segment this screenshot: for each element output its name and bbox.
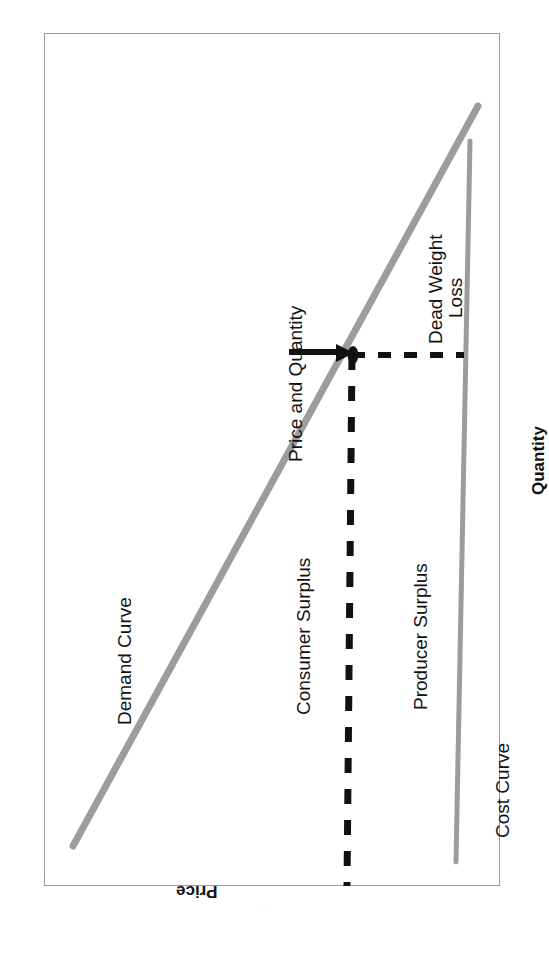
dead-weight-loss-label: Dead Weight Loss <box>426 235 466 345</box>
curves-layer <box>0 0 549 959</box>
equilibrium-vertical-dashed-line <box>347 355 352 886</box>
cost-curve-label: Cost Curve <box>492 743 513 838</box>
demand-curve-label: Demand Curve <box>114 597 135 725</box>
consumer-surplus-label: Consumer Surplus <box>293 558 314 715</box>
x-axis-title: Quantity <box>529 426 548 495</box>
price-and-quantity-label: Price and Quantity <box>285 306 306 462</box>
y-axis-title: Price <box>176 882 218 901</box>
dead-weight-loss-line-2: Loss <box>446 235 466 319</box>
equilibrium-point-marker <box>348 346 359 364</box>
economics-diagram-figure: Quantity Price Demand Curve Consumer Sur… <box>0 0 549 959</box>
demand-curve-line <box>73 106 478 846</box>
dead-weight-loss-line-1: Dead Weight <box>426 235 446 345</box>
producer-surplus-label: Producer Surplus <box>410 563 431 710</box>
